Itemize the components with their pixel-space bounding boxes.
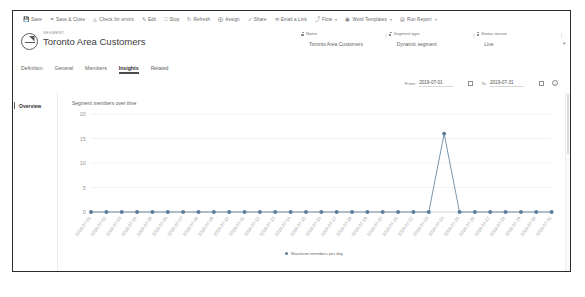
command-save-and-close[interactable]: ⏷ Save & Close [46, 12, 89, 27]
y-tick-label: 5 [83, 185, 86, 191]
data-point[interactable] [504, 210, 508, 214]
email-link-icon: ✉ [275, 17, 279, 22]
chart-series-points [89, 132, 554, 214]
chart-legend: Maximum members per day [68, 251, 560, 256]
chevron-down-icon[interactable]: ▾ [563, 40, 566, 46]
application-window: 💾 Save ⏷ Save & Close ◬ Check for errors… [12, 10, 571, 272]
data-point[interactable] [227, 210, 231, 214]
chart-series-line [91, 134, 552, 212]
date-from-group: From: 2019-07-01 [405, 80, 473, 87]
chart-svg: 05101520 2019-07-012019-07-022019-07-032… [68, 108, 560, 250]
calendar-icon[interactable] [468, 81, 473, 86]
header-field-name[interactable]: Name Toronto Area Customers | [301, 31, 389, 47]
command-check-for-errors[interactable]: ◬ Check for errors [89, 12, 138, 27]
insights-body: Overview Segment members over time 05101… [13, 92, 570, 271]
scrollbar-thumb[interactable] [567, 94, 570, 154]
segment-members-line-chart: 05101520 2019-07-012019-07-022019-07-032… [68, 108, 560, 250]
tab-general[interactable]: General [55, 62, 73, 74]
save-and-close-icon: ⏷ [50, 17, 54, 22]
chart-gridlines [91, 114, 552, 212]
date-range-bar: From: 2019-07-01 To: 2019-07-31 i [13, 74, 570, 93]
data-point[interactable] [473, 210, 477, 214]
vertical-scrollbar[interactable] [565, 92, 570, 271]
data-point[interactable] [181, 210, 185, 214]
date-from-input[interactable]: 2019-07-01 [419, 80, 453, 87]
tab-insights[interactable]: Insights [119, 62, 139, 74]
data-point[interactable] [442, 132, 446, 136]
data-point[interactable] [150, 210, 154, 214]
tab-definition[interactable]: Definition [21, 62, 43, 74]
data-point[interactable] [258, 210, 262, 214]
date-to-input[interactable]: 2019-07-31 [490, 80, 524, 87]
date-from-label: From: [405, 81, 416, 86]
word-template-icon: ▣ [345, 17, 350, 22]
lock-icon [476, 32, 479, 36]
y-tick-label: 20 [80, 111, 86, 117]
command-refresh[interactable]: ↻ Refresh [183, 12, 214, 27]
data-point[interactable] [488, 210, 492, 214]
data-point[interactable] [197, 210, 201, 214]
calendar-icon[interactable] [539, 81, 544, 86]
field-divider: | [473, 32, 474, 38]
data-point[interactable] [411, 210, 415, 214]
date-to-label: To: [481, 81, 487, 86]
header-field-label-row: Segment type [389, 31, 473, 36]
data-point[interactable] [519, 210, 523, 214]
data-point[interactable] [534, 210, 538, 214]
command-email-a-link[interactable]: ✉ Email a Link [271, 12, 311, 27]
command-flow[interactable]: ⤴ Flow ▾ [311, 12, 341, 27]
field-label: Segment type [394, 31, 420, 36]
tab-related[interactable]: Related [151, 62, 169, 74]
command-label: Flow [322, 17, 332, 22]
command-label: Run Report [407, 17, 432, 22]
chevron-down-icon: ▾ [390, 18, 392, 22]
data-point[interactable] [365, 210, 369, 214]
header-field-label-row: Name [301, 31, 385, 36]
info-icon[interactable]: i [552, 80, 558, 86]
data-point[interactable] [427, 210, 431, 214]
data-point[interactable] [350, 210, 354, 214]
y-tick-label: 0 [83, 209, 86, 215]
stop-icon: □ [164, 17, 167, 22]
data-point[interactable] [396, 210, 400, 214]
data-point[interactable] [135, 210, 139, 214]
data-point[interactable] [289, 210, 293, 214]
field-divider: | [561, 32, 562, 38]
data-point[interactable] [550, 210, 554, 214]
save-icon: 💾 [23, 17, 29, 22]
command-run-report[interactable]: ▤ Run Report ▾ [396, 12, 441, 27]
command-save[interactable]: 💾 Save [19, 12, 46, 27]
chart-title: Segment members over time [72, 100, 560, 106]
refresh-icon: ↻ [187, 17, 191, 22]
tab-members[interactable]: Members [85, 62, 107, 74]
command-share[interactable]: ➶ Share [244, 12, 271, 27]
data-point[interactable] [166, 210, 170, 214]
command-edit[interactable]: ✎ Edit [138, 12, 160, 27]
data-point[interactable] [89, 210, 93, 214]
data-point[interactable] [273, 210, 277, 214]
lock-icon [389, 32, 392, 36]
command-label: Save & Close [56, 17, 85, 22]
y-tick-label: 10 [80, 160, 86, 166]
data-point[interactable] [243, 210, 247, 214]
data-point[interactable] [104, 210, 108, 214]
command-assign[interactable]: ⨁ Assign [214, 12, 244, 27]
insights-left-nav: Overview [13, 92, 58, 271]
data-point[interactable] [458, 210, 462, 214]
data-point[interactable] [212, 210, 216, 214]
data-point[interactable] [319, 210, 323, 214]
header-field-segment-type[interactable]: Segment type Dynamic segment | [389, 31, 477, 47]
command-label: Save [31, 17, 42, 22]
record-header: SEGMENT Toronto Area Customers Name Toro… [13, 28, 570, 61]
command-stop[interactable]: □ Stop [160, 12, 183, 27]
command-label: Word Templates [352, 17, 386, 22]
sidebar-item-overview[interactable]: Overview [13, 101, 57, 110]
data-point[interactable] [335, 210, 339, 214]
command-word-templates[interactable]: ▣ Word Templates ▾ [341, 12, 396, 27]
screenshot-root: 💾 Save ⏷ Save & Close ◬ Check for errors… [0, 0, 585, 297]
data-point[interactable] [120, 210, 124, 214]
command-label: Refresh [193, 17, 210, 22]
data-point[interactable] [381, 210, 385, 214]
data-point[interactable] [304, 210, 308, 214]
header-field-status-reason[interactable]: Status reason Live | ▾ [476, 31, 564, 47]
